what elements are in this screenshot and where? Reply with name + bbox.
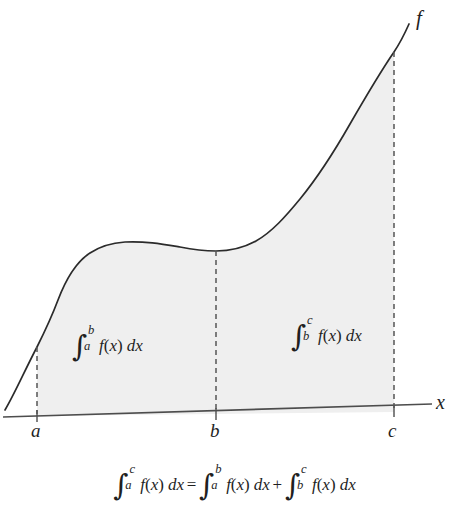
differential: dx [127, 336, 143, 355]
integral-label-left-region: ∫baf(x)dx [72, 327, 143, 356]
tick-label-b: b [210, 421, 220, 440]
equation-term-1: ∫baf(x)dx [199, 475, 270, 494]
integral-lower-limit: a [125, 479, 131, 492]
integration-variable: x [322, 475, 330, 494]
close-paren: ) [244, 475, 250, 494]
integral-limits-left: ba [88, 334, 99, 351]
integral-upper-limit: c [307, 314, 313, 327]
integral-limits-term2: cb [301, 473, 312, 490]
equation-lhs: ∫caf(x)dx [113, 475, 184, 494]
integral-lower-limit: a [84, 340, 90, 353]
integral-additivity-figure: f x a b c ∫baf(x)dx ∫cbf(x)dx ∫caf(x)dx=… [0, 0, 469, 515]
close-paren: ) [330, 475, 336, 494]
integral-label-right-region: ∫cbf(x)dx [291, 317, 362, 346]
integral-lower-limit: b [297, 479, 303, 492]
differential: dx [346, 326, 362, 345]
close-paren: ) [158, 475, 164, 494]
integral-upper-limit: c [129, 463, 135, 476]
tick-label-c: c [388, 421, 396, 440]
integral-upper-limit: c [301, 463, 307, 476]
integral-upper-limit: b [88, 324, 94, 337]
integration-variable: x [109, 336, 117, 355]
integration-variable: x [328, 326, 336, 345]
integral-lower-limit: a [211, 479, 217, 492]
integration-variable: x [237, 475, 245, 494]
equals-sign: = [184, 475, 199, 494]
curve-label-f: f [416, 8, 422, 29]
caption-equation: ∫caf(x)dx=∫baf(x)dx+∫cbf(x)dx [0, 466, 469, 495]
close-paren: ) [117, 336, 123, 355]
differential: dx [340, 475, 356, 494]
integral-upper-limit: b [215, 463, 221, 476]
differential: dx [254, 475, 270, 494]
tick-label-a: a [31, 421, 41, 440]
integral-limits-right: cb [307, 324, 318, 341]
differential: dx [168, 475, 184, 494]
axis-label-x: x [436, 392, 445, 412]
equation-term-2: ∫cbf(x)dx [285, 475, 356, 494]
plus-sign: + [270, 475, 285, 494]
integral-lower-limit: b [303, 330, 309, 343]
integral-limits-lhs: ca [129, 473, 140, 490]
shaded-area-right-region [216, 52, 394, 414]
close-paren: ) [336, 326, 342, 345]
figure-canvas [0, 0, 469, 515]
integral-limits-term1: ba [215, 473, 226, 490]
